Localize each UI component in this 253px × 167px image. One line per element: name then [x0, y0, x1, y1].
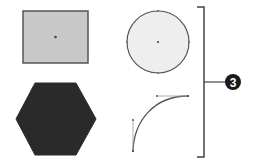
anchor-point-icon — [187, 95, 189, 97]
rectangle-shape — [23, 11, 88, 63]
callout-badge: 3 — [225, 74, 241, 90]
center-point-icon — [157, 41, 159, 43]
curve-path-shape — [132, 95, 189, 152]
bracket — [197, 7, 226, 157]
center-point-icon — [54, 36, 57, 39]
anchor-point-icon — [157, 10, 159, 12]
callout-number: 3 — [230, 76, 237, 90]
anchor-point-icon — [188, 41, 190, 43]
anchor-point-icon — [132, 150, 134, 152]
anchor-point-icon — [157, 72, 159, 74]
circle-shape — [126, 10, 190, 74]
diagram-canvas: 3 — [0, 0, 253, 167]
handle-point-icon — [132, 119, 134, 121]
anchor-point-icon — [126, 41, 128, 43]
hexagon-shape — [16, 83, 96, 155]
handle-point-icon — [156, 95, 158, 97]
